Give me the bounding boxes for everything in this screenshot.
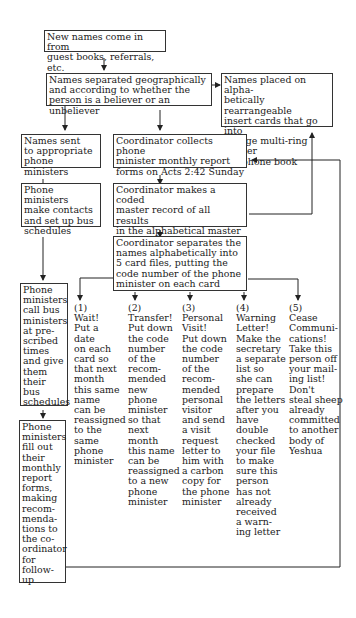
node-call-bus-ministers: Phone ministers call bus ministers at pr… [20, 283, 68, 406]
option-1-wait: (1) Wait! Put a date on each card so tha… [74, 303, 126, 466]
node-fill-out-report-forms: Phone ministers fill out their monthly r… [19, 420, 66, 583]
node-insert-cards: Names placed on alpha- betically rearran… [221, 73, 333, 127]
node-sent-to-phone-ministers: Names sent to appropriate phone minister… [21, 134, 101, 168]
option-4-warning-letter: (4) Warning Letter! Make the secretary a… [236, 303, 286, 538]
node-names-separated: Names separated geographically and accor… [46, 73, 212, 106]
option-3-personal-visit: (3) Personal Visit! Put down the code nu… [182, 303, 230, 507]
node-separates-card-files: Coordinator separates the names alphabet… [113, 236, 247, 291]
node-coordinator-collects: Coordinator collects phone minister mont… [113, 134, 247, 168]
node-coded-master-record: Coordinator makes a coded master record … [113, 183, 247, 227]
node-phone-ministers-contacts: Phone ministers make contacts and set up… [21, 183, 101, 227]
option-2-transfer: (2) Transfer! Put down the code number o… [128, 303, 180, 507]
option-5-cease-communications: (5) Cease Communi- cations! Take this pe… [289, 303, 343, 456]
node-new-names: New names come in from guest books, refe… [44, 30, 166, 52]
